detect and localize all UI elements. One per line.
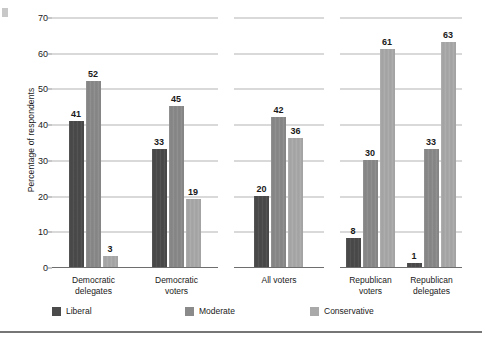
bar-texture — [86, 81, 101, 267]
bar: 33 — [152, 149, 167, 267]
legend-item[interactable]: Moderate — [185, 303, 235, 319]
bar-texture — [363, 160, 378, 267]
legend-swatch-icon — [52, 307, 61, 316]
y-axis-title: Percentage of respondents — [24, 2, 38, 278]
bar: 33 — [424, 149, 439, 267]
bar-value-label: 30 — [365, 148, 375, 158]
y-axis-tick-label: 20 — [38, 192, 48, 202]
bar-value-label: 8 — [350, 226, 355, 236]
bar-texture — [271, 117, 286, 267]
bar-value-label: 33 — [426, 137, 436, 147]
bar-value-label: 41 — [71, 109, 81, 119]
republican-panel: 83061Republicanvoters13363Republicandele… — [340, 18, 462, 268]
bar-group: 13363Republicandelegates — [404, 18, 460, 268]
y-axis-tick-label: 10 — [38, 227, 48, 237]
legend-swatch-icon — [185, 307, 194, 316]
bar: 19 — [186, 199, 201, 267]
bar: 42 — [271, 117, 286, 267]
bar-value-label: 63 — [443, 30, 453, 40]
y-axis-tick-label: 40 — [38, 120, 48, 130]
bar-value-label: 3 — [107, 244, 112, 254]
bar-value-label: 19 — [188, 187, 198, 197]
legend-label: Liberal — [66, 306, 92, 316]
bar: 30 — [363, 160, 378, 267]
bar: 63 — [441, 42, 456, 267]
bar-group: 41523Democraticdelegates — [66, 18, 122, 268]
bar: 41 — [69, 121, 84, 267]
page-artifact-mark — [2, 8, 8, 17]
legend-swatch-icon — [310, 307, 319, 316]
bar-group: 204236All voters — [251, 18, 307, 268]
bar-texture — [152, 149, 167, 267]
x-axis-group-label: Republicandelegates — [410, 275, 453, 296]
bar-value-label: 61 — [382, 37, 392, 47]
bar-value-label: 33 — [154, 137, 164, 147]
x-axis-group-label: Democraticvoters — [155, 275, 198, 296]
bar: 1 — [407, 263, 422, 267]
footer-rule — [0, 331, 482, 333]
y-axis-tick-label: 30 — [38, 156, 48, 166]
y-axis-tick-label: 60 — [38, 49, 48, 59]
legend-label: Moderate — [199, 306, 235, 316]
bar-value-label: 20 — [256, 184, 266, 194]
bar-texture — [288, 138, 303, 267]
bar-texture — [254, 196, 269, 267]
bar: 52 — [86, 81, 101, 267]
bar-texture — [169, 106, 184, 267]
bar-texture — [407, 263, 422, 267]
bar: 36 — [288, 138, 303, 267]
bar: 3 — [103, 256, 118, 267]
bar-texture — [186, 199, 201, 267]
bar: 20 — [254, 196, 269, 267]
democratic-panel: 41523Democraticdelegates334519Democratic… — [52, 18, 218, 268]
bar-value-label: 1 — [411, 251, 416, 261]
y-axis-tick-label: 70 — [38, 13, 48, 23]
legend-item[interactable]: Conservative — [310, 303, 374, 319]
bar-texture — [380, 49, 395, 267]
legend-item[interactable]: Liberal — [52, 303, 92, 319]
bar-group: 83061Republicanvoters — [343, 18, 399, 268]
bar-texture — [441, 42, 456, 267]
y-axis-tick-label: 50 — [38, 84, 48, 94]
bar-value-label: 45 — [171, 94, 181, 104]
bar-group: 334519Democraticvoters — [149, 18, 205, 268]
bar: 8 — [346, 238, 361, 267]
bar-value-label: 52 — [88, 69, 98, 79]
x-axis-group-label: Democraticdelegates — [72, 275, 115, 296]
x-axis-group-label: All voters — [262, 275, 297, 286]
legend-label: Conservative — [324, 306, 374, 316]
bar-chart-figure: Percentage of respondents 01020304050607… — [0, 0, 482, 345]
bar: 45 — [169, 106, 184, 267]
bar-texture — [346, 238, 361, 267]
all-voters-panel: 204236All voters — [234, 18, 324, 268]
plot-area: 010203040506070 41523Democraticdelegates… — [52, 18, 462, 268]
bar-texture — [424, 149, 439, 267]
chart-legend: LiberalModerateConservative — [52, 303, 462, 319]
bar-texture — [69, 121, 84, 267]
bar-value-label: 42 — [273, 105, 283, 115]
bar-value-label: 36 — [290, 126, 300, 136]
x-axis-group-label: Republicanvoters — [349, 275, 392, 296]
bar-texture — [103, 256, 118, 267]
bar: 61 — [380, 49, 395, 267]
